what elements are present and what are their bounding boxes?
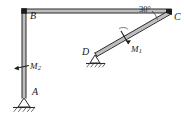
label-moment-m2-subscript: 2	[38, 64, 41, 71]
joint-b	[21, 8, 27, 14]
label-moment-m1-subscript: 1	[139, 47, 142, 54]
structural-frame-diagram: B C D A 30° M1 M2	[0, 0, 184, 117]
column-ab-member	[22, 9, 26, 98]
label-point-a: A	[32, 87, 38, 97]
label-point-c: C	[174, 12, 181, 22]
support-a	[13, 98, 35, 112]
label-point-b: B	[30, 11, 36, 21]
label-angle-30: 30°	[139, 5, 151, 14]
label-moment-m1: M1	[131, 45, 142, 55]
label-point-d: D	[82, 47, 89, 57]
label-moment-m2: M2	[30, 62, 41, 72]
label-moment-m1-base: M	[131, 44, 139, 54]
label-moment-m2-base: M	[30, 61, 38, 71]
diagram-canvas	[0, 0, 184, 117]
